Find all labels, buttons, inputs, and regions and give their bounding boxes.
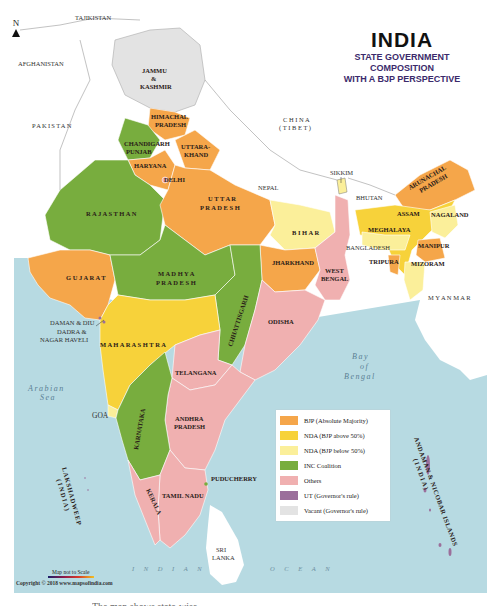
label-dadra-1: DADRA & bbox=[57, 328, 86, 335]
label-afghanistan: AFGHANISTAN bbox=[18, 60, 64, 67]
legend-swatch bbox=[280, 491, 298, 500]
title-block: INDIA STATE GOVERNMENT COMPOSITION WITH … bbox=[322, 28, 482, 85]
label-up-1: U T T A R bbox=[208, 195, 236, 202]
legend: BJP (Absolute Majority) NDA (BJP above 5… bbox=[276, 410, 390, 521]
page-subtitle-1: STATE GOVERNMENT COMPOSITION bbox=[322, 52, 482, 74]
legend-item-vacant-governor: Vacant (Governor's rule) bbox=[280, 503, 386, 518]
legend-swatch bbox=[280, 446, 298, 455]
legend-label: NDA (BJP above 50%) bbox=[304, 432, 365, 439]
legend-swatch bbox=[280, 416, 298, 425]
state-jharkhand[interactable] bbox=[260, 245, 320, 292]
state-puducherry[interactable] bbox=[204, 482, 208, 486]
north-arrow-icon bbox=[12, 29, 20, 37]
label-up-2: P R A D E S H bbox=[200, 204, 240, 211]
legend-item-nda-below-50: NDA (BJP below 50%) bbox=[280, 443, 386, 458]
label-dadra-2: NAGAR HAVELI bbox=[40, 336, 88, 343]
legend-label: Others bbox=[304, 477, 321, 484]
label-rajasthan: R A J A S T H A N bbox=[86, 210, 137, 217]
label-assam: ASSAM bbox=[397, 210, 420, 217]
legend-swatch bbox=[280, 461, 298, 470]
label-arabian-sea-1: Arabian bbox=[27, 384, 65, 393]
legend-swatch bbox=[280, 506, 298, 515]
label-bihar: B I H A R bbox=[292, 229, 319, 236]
label-mizoram: MIZORAM bbox=[411, 260, 445, 267]
label-arabian-sea-2: Sea bbox=[40, 393, 56, 402]
label-bhutan: BHUTAN bbox=[356, 194, 383, 201]
label-andhra-1: ANDHRA bbox=[175, 415, 204, 422]
label-ocean: O C E A N bbox=[270, 565, 334, 572]
label-tamil-nadu: TAMIL NADU bbox=[162, 492, 204, 499]
copyright: Copyright © 2018 www.mapsofindia.com bbox=[16, 580, 113, 586]
label-mp-2: P R A D E S H bbox=[156, 279, 196, 286]
legend-item-nda-above-50: NDA (BJP above 50%) bbox=[280, 428, 386, 443]
label-goa: GOA bbox=[92, 411, 109, 420]
compass-label: N bbox=[12, 18, 20, 28]
page-subtitle-2: WITH A BJP PERSPECTIVE bbox=[322, 74, 482, 85]
label-jk-3: KASHMIR bbox=[140, 83, 172, 90]
label-haryana: HARYANA bbox=[134, 162, 167, 169]
legend-item-bjp-absolute: BJP (Absolute Majority) bbox=[280, 413, 386, 428]
label-puducherry: PUDUCHERRY bbox=[211, 475, 257, 482]
scale-bar bbox=[48, 576, 94, 578]
label-china-2: ( T I B E T ) bbox=[279, 124, 311, 132]
state-sikkim[interactable] bbox=[337, 178, 347, 194]
label-bay-2: of bbox=[360, 362, 370, 371]
label-jharkhand: JHARKHAND bbox=[272, 259, 314, 266]
label-nepal: NEPAL bbox=[258, 184, 278, 191]
label-jk-1: JAMMU bbox=[142, 67, 167, 74]
label-myanmar: M Y A N M A R bbox=[428, 294, 471, 301]
legend-label: BJP (Absolute Majority) bbox=[304, 417, 368, 424]
label-gujarat: G U J A R A T bbox=[66, 274, 106, 281]
legend-item-inc-coalition: INC Coalition bbox=[280, 458, 386, 473]
label-sikkim: SIKKIM bbox=[330, 169, 353, 176]
compass: N bbox=[12, 18, 20, 37]
label-wb-1: WEST bbox=[325, 267, 344, 274]
label-mp-1: M A D H Y A bbox=[158, 270, 195, 277]
label-telangana: TELANGANA bbox=[175, 369, 217, 376]
label-punjab: PUNJAB bbox=[126, 148, 152, 155]
label-bay-3: Bengal bbox=[344, 372, 376, 381]
label-sri-lanka-1: SRI bbox=[216, 546, 226, 553]
state-mizoram[interactable] bbox=[404, 262, 425, 300]
legend-label: Vacant (Governor's rule) bbox=[304, 507, 368, 514]
label-hp-2: PRADESH bbox=[155, 121, 186, 128]
scale-note: Map not to Scale bbox=[52, 569, 89, 575]
legend-item-ut-governor: UT (Governor's rule) bbox=[280, 488, 386, 503]
label-tajikistan: TAJIKISTAN bbox=[75, 14, 111, 21]
label-andhra-2: PRADESH bbox=[174, 423, 205, 430]
label-chandigarh: CHANDIGARH bbox=[124, 140, 170, 147]
caption-partial: The map shows state-wise bbox=[92, 600, 272, 606]
label-wb-2: BENGAL bbox=[321, 275, 349, 282]
legend-swatch bbox=[280, 431, 298, 440]
label-tripura: TRIPURA bbox=[369, 258, 399, 265]
label-uk-1: UTTARA- bbox=[181, 143, 210, 150]
label-hp-1: HIMACHAL bbox=[151, 113, 189, 120]
label-jk-2: & bbox=[151, 75, 157, 82]
label-sri-lanka-2: LANKA bbox=[212, 554, 235, 561]
label-china-1: C H I N A bbox=[283, 116, 310, 123]
label-manipur: MANIPUR bbox=[418, 242, 450, 249]
legend-label: INC Coalition bbox=[304, 462, 341, 469]
label-nagaland: NAGALAND bbox=[431, 211, 469, 218]
legend-label: NDA (BJP below 50%) bbox=[304, 447, 365, 454]
legend-item-others: Others bbox=[280, 473, 386, 488]
label-delhi: DELHI bbox=[164, 176, 185, 183]
india-map: TAJIKISTAN AFGHANISTAN PAKISTAN C H I N … bbox=[0, 0, 500, 606]
label-pakistan: PAKISTAN bbox=[32, 122, 73, 129]
label-indian: I N D I A N bbox=[131, 565, 206, 572]
label-bangladesh: BANGLADESH bbox=[346, 244, 390, 251]
legend-swatch bbox=[280, 476, 298, 485]
page-title: INDIA bbox=[322, 28, 482, 52]
label-maharashtra: M A H A R A S H T R A bbox=[100, 341, 166, 348]
label-uk-2: KHAND bbox=[184, 151, 209, 158]
label-odisha: ODISHA bbox=[268, 318, 294, 325]
ut-daman-diu[interactable] bbox=[99, 317, 102, 320]
label-bay-1: Bay bbox=[352, 352, 369, 361]
label-meghalaya: MEGHALAYA bbox=[368, 226, 411, 233]
label-daman-diu: DAMAN & DIU bbox=[50, 319, 95, 326]
legend-label: UT (Governor's rule) bbox=[304, 492, 359, 499]
